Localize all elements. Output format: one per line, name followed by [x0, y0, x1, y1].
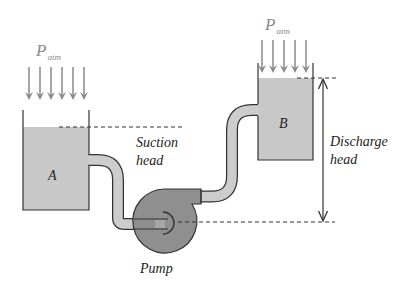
patm-label-a: Patm	[35, 41, 61, 62]
pump: Pump	[133, 189, 201, 276]
suction-head-label-line1: Suction	[136, 135, 178, 150]
tank-a: A	[23, 110, 91, 210]
pump-system-diagram: Patm A	[0, 0, 411, 283]
down-arrow-icons	[29, 67, 84, 97]
discharge-pipe	[198, 110, 259, 197]
discharge-head-label-line2: head	[330, 152, 358, 167]
atm-pressure-arrows-b: Patm	[258, 15, 310, 73]
patm-label-b: Patm	[264, 15, 290, 36]
tank-a-label: A	[47, 168, 57, 183]
tank-b-label: B	[279, 116, 288, 131]
pump-casing	[133, 189, 201, 253]
atm-pressure-arrows-a: Patm	[25, 41, 88, 100]
down-arrow-icons	[262, 40, 306, 70]
pump-label: Pump	[139, 261, 173, 276]
suction-head-label-line2: head	[136, 153, 164, 168]
discharge-head-label-line1: Discharge	[329, 134, 388, 149]
discharge-head-arrow	[319, 79, 328, 221]
